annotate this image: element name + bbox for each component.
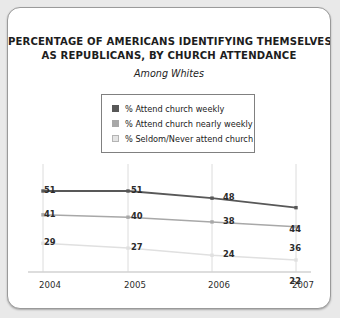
- data-label: 38: [223, 216, 235, 226]
- data-label: 51: [44, 185, 56, 195]
- data-label: 27: [131, 242, 143, 252]
- data-label: 24: [223, 249, 235, 259]
- data-point-marker: [210, 254, 213, 257]
- x-axis-tick-2007: 2007: [292, 280, 314, 290]
- series-layer: [41, 189, 297, 261]
- data-label: 44: [289, 224, 301, 234]
- data-point-marker: [210, 196, 213, 199]
- data-point-marker: [210, 220, 213, 223]
- series-line-1: [43, 215, 296, 227]
- data-point-marker: [126, 215, 129, 218]
- x-axis-tick-2004: 2004: [39, 280, 61, 290]
- data-point-marker: [294, 258, 297, 261]
- chart-card: PERCENTAGE OF AMERICANS IDENTIFYING THEM…: [7, 7, 331, 309]
- data-point-marker: [126, 246, 129, 249]
- series-line-0: [43, 191, 296, 208]
- series-line-2: [43, 243, 296, 260]
- x-axis-tick-2006: 2006: [208, 280, 230, 290]
- x-axis-tick-2005: 2005: [124, 280, 146, 290]
- data-point-marker: [126, 189, 129, 192]
- data-label: 41: [44, 209, 56, 219]
- data-point-marker: [294, 206, 297, 209]
- line-chart-plot: [8, 8, 331, 309]
- data-label: 40: [131, 211, 143, 221]
- data-label: 36: [289, 243, 301, 253]
- data-label: 51: [131, 185, 143, 195]
- gridlines: [28, 164, 311, 272]
- data-label: 48: [223, 192, 235, 202]
- data-label: 29: [44, 237, 56, 247]
